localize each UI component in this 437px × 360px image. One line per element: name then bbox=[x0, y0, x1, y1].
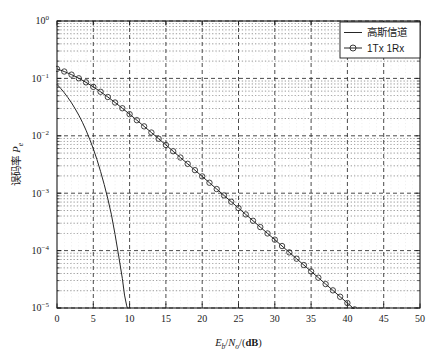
x-tick-label: 50 bbox=[415, 313, 425, 324]
chart-canvas: 05101520253035404550 10010−110−210−310−4… bbox=[0, 0, 437, 360]
x-tick-label: 0 bbox=[55, 313, 60, 324]
x-tick-label: 25 bbox=[234, 313, 244, 324]
x-tick-label: 45 bbox=[379, 313, 389, 324]
legend[interactable]: 高斯信道1Tx 1Rx bbox=[340, 22, 420, 58]
x-tick-label: 10 bbox=[125, 313, 135, 324]
x-tick-label: 30 bbox=[270, 313, 280, 324]
x-tick-label: 20 bbox=[197, 313, 207, 324]
legend-label: 高斯信道 bbox=[367, 26, 408, 38]
x-tick-label: 5 bbox=[91, 313, 96, 324]
x-tick-label: 15 bbox=[161, 313, 171, 324]
figure-container: 05101520253035404550 10010−110−210−310−4… bbox=[0, 0, 437, 360]
x-tick-label: 40 bbox=[342, 313, 352, 324]
x-tick-label: 35 bbox=[306, 313, 316, 324]
legend-label: 1Tx 1Rx bbox=[367, 43, 404, 54]
